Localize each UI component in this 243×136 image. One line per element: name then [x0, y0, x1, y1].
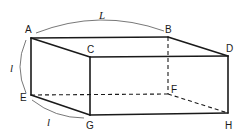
dimension-arc-eg — [32, 100, 84, 118]
vertex-label-c: C — [87, 44, 94, 55]
dimension-label-ab: L — [98, 9, 105, 21]
dimension-arc-ae — [20, 40, 26, 93]
vertex-label-b: B — [165, 24, 172, 35]
edge-ab — [31, 37, 168, 38]
dimension-label-ae: l — [10, 62, 13, 74]
dimension-label-eg: l — [47, 116, 50, 128]
vertex-label-h: H — [225, 120, 232, 131]
edge-eg — [31, 95, 90, 115]
edge-gh — [90, 113, 228, 115]
vertex-label-a: A — [25, 24, 32, 35]
hidden-edge-ef — [31, 94, 168, 95]
vertex-label-g: G — [86, 120, 94, 131]
box-figure: L l l A B C D E F G H — [0, 0, 243, 136]
vertex-label-f: F — [171, 84, 177, 95]
edge-ac — [31, 38, 90, 57]
edge-bd — [168, 37, 228, 56]
hidden-edge-fh — [168, 94, 228, 113]
dimension-arc-ab — [36, 20, 164, 33]
vertex-label-e: E — [20, 92, 27, 103]
vertex-label-d: D — [226, 43, 233, 54]
box-diagram: L l l A B C D E F G H — [0, 0, 243, 136]
edge-cd — [90, 56, 228, 57]
